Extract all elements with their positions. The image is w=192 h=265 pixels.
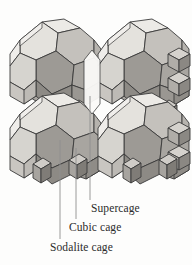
figure-container: Supercage Cubic cage Sodalite cage (0, 0, 192, 265)
label-cubic-cage: Cubic cage (69, 221, 121, 233)
supercage-void (84, 50, 100, 114)
label-supercage: Supercage (91, 202, 140, 214)
label-sodalite-cage: Sodalite cage (50, 241, 113, 253)
